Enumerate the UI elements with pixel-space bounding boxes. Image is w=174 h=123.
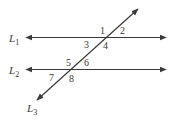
line-l3-transversal (37, 9, 138, 100)
angle-label-1: 1 (100, 25, 105, 36)
label-l2: L2 (8, 64, 19, 79)
parallel-lines-transversal-diagram: L1 L2 L3 1 2 3 4 5 6 7 8 (0, 0, 174, 123)
angle-label-4: 4 (103, 40, 108, 51)
label-l3: L3 (26, 102, 37, 117)
angle-label-6: 6 (84, 57, 89, 68)
angle-label-2: 2 (120, 25, 125, 36)
angle-label-3: 3 (84, 39, 89, 50)
angle-label-5: 5 (66, 57, 71, 68)
angle-label-8: 8 (69, 73, 74, 84)
label-l1: L1 (8, 32, 19, 47)
angle-label-7: 7 (49, 72, 54, 83)
